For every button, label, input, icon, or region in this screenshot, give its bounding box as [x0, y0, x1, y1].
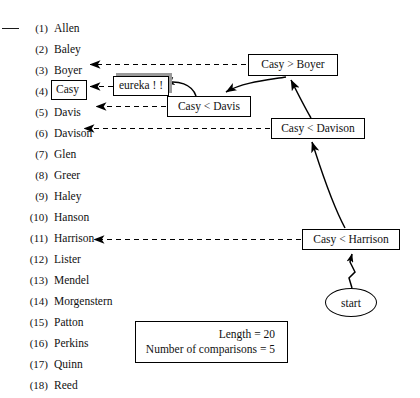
legend-length: Length = 20	[219, 327, 275, 342]
node-casy-lt-davis[interactable]: Casy < Davis	[167, 96, 251, 117]
node-casy-lt-davison[interactable]: Casy < Davison	[271, 118, 365, 139]
node-casy-lt-davison-label: Casy < Davison	[281, 123, 355, 135]
legend-comparisons: Number of comparisons = 5	[146, 342, 275, 357]
edge-harrison-to-davison	[312, 142, 345, 228]
node-casy-gt-boyer[interactable]: Casy > Boyer	[248, 54, 338, 76]
figure-canvas: (1) Allen (2) Baley (3) Boyer (4) Casy (…	[0, 0, 420, 398]
node-casy-lt-harrison[interactable]: Casy < Harrison	[302, 229, 400, 250]
node-eureka-label: eureka ! !	[119, 80, 163, 92]
edge-start-to-harrison	[349, 254, 355, 288]
node-casy-lt-harrison-label: Casy < Harrison	[313, 234, 388, 246]
edge-boyer-to-davis	[226, 77, 286, 92]
node-casy-lt-davis-label: Casy < Davis	[178, 101, 240, 113]
node-start-label: start	[341, 297, 361, 309]
node-eureka[interactable]: eureka ! !	[113, 76, 169, 96]
edge-davison-to-boyer	[291, 80, 311, 118]
node-start[interactable]: start	[325, 288, 377, 317]
legend-box: Length = 20 Number of comparisons = 5	[135, 321, 288, 363]
node-casy-gt-boyer-label: Casy > Boyer	[261, 59, 324, 71]
